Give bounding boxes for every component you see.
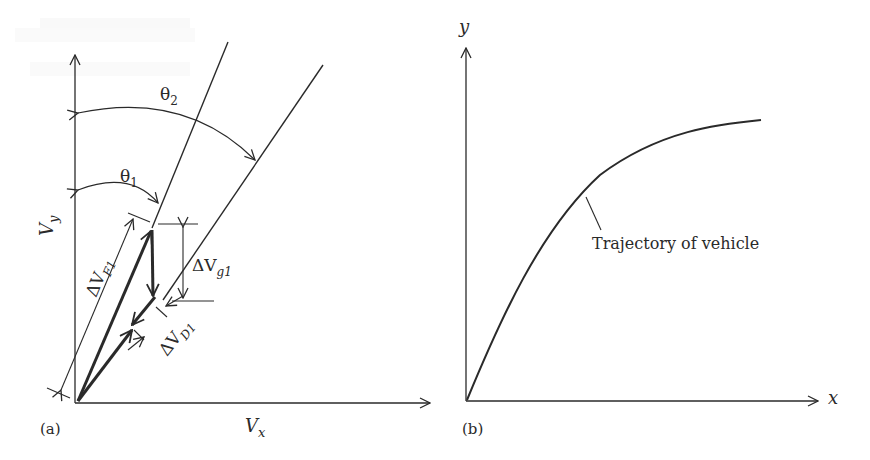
y-axis-label: y [458, 16, 470, 37]
vf1-extension-top [128, 213, 150, 222]
delta-vd1-vector [132, 297, 155, 325]
delta-vf1-label: ΔVF1 [81, 254, 119, 301]
delta-vg1-label: ΔVg1 [192, 255, 232, 279]
trajectory-label: Trajectory of vehicle [592, 234, 759, 253]
vy-axis-label: Vy [36, 215, 61, 236]
theta2-arc [78, 107, 255, 160]
trajectory-curve [467, 120, 761, 400]
vx-axis-label: Vx [245, 415, 266, 440]
bleed-through-artifact [15, 18, 195, 76]
figure: θ2 θ1 Vy ΔVF1 ΔVg1 ΔVD1 Vx (a) y x Traje… [0, 0, 870, 460]
diagram-canvas: θ2 θ1 Vy ΔVF1 ΔVg1 ΔVD1 Vx (a) y x Traje… [0, 0, 870, 460]
theta2-label: θ2 [160, 84, 178, 108]
panel-b-caption: (b) [462, 420, 483, 438]
delta-vg1-vector [152, 230, 153, 296]
vd1-arrow-bottom [128, 337, 144, 350]
panel-a [47, 42, 430, 403]
vf1-dimension-line [61, 219, 133, 390]
trajectory-pointer [586, 197, 601, 230]
vd1-tick-bottom [134, 330, 144, 340]
theta2-direction-line [163, 65, 323, 300]
vd1-tick-top [156, 307, 167, 317]
theta1-arc [78, 182, 158, 203]
vf1-extension-bottom [47, 388, 70, 398]
panel-a-caption: (a) [40, 420, 61, 438]
x-axis-label: x [828, 387, 838, 408]
delta-vd1-label: ΔVD1 [154, 314, 199, 362]
panel-b [466, 48, 818, 401]
theta1-label: θ1 [120, 166, 138, 190]
